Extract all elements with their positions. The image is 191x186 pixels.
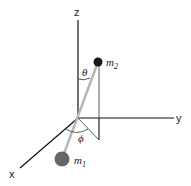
rod [62,62,98,159]
m2-label: m2 [106,56,118,71]
x-label: x [9,168,15,180]
mass-m2 [94,58,103,67]
phi-arc [66,129,88,133]
phi-label: ϕ [78,132,84,144]
spherical-pendulum-diagram: z y x θ ϕ m2 m1 [0,0,191,186]
mass-m1 [55,152,70,167]
theta-arc [78,78,90,80]
z-label: z [74,6,80,18]
y-label: y [176,112,182,124]
m1-label: m1 [74,154,86,169]
theta-label: θ [82,66,88,78]
